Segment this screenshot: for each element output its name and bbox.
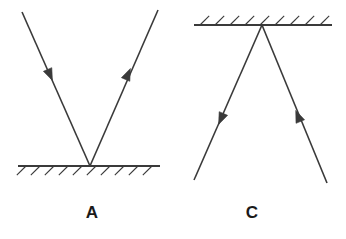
mirror-hatch-tick <box>143 166 152 175</box>
mirror-hatch-tick <box>73 166 82 175</box>
incident-ray-a <box>22 12 90 166</box>
mirror-hatching-a <box>17 166 152 175</box>
reflected-ray-c <box>194 25 262 180</box>
mirror-hatch-tick <box>115 166 124 175</box>
mirror-hatch-tick <box>305 16 314 25</box>
mirror-hatch-tick <box>245 16 254 25</box>
incident-ray-c <box>262 25 327 183</box>
mirror-hatching-c <box>200 16 329 25</box>
panel-label-c: C <box>232 203 272 223</box>
reflected-ray-a <box>90 10 158 166</box>
mirror-hatch-tick <box>31 166 40 175</box>
mirror-hatch-tick <box>87 166 96 175</box>
mirror-hatch-tick <box>290 16 299 25</box>
panel-a <box>17 10 160 175</box>
mirror-hatch-tick <box>215 16 224 25</box>
arrowhead-reflected-a <box>121 69 130 82</box>
mirror-hatch-tick <box>260 16 269 25</box>
mirror-hatch-tick <box>129 166 138 175</box>
mirror-hatch-tick <box>17 166 26 175</box>
mirror-hatch-tick <box>320 16 329 25</box>
panel-label-a: A <box>72 203 112 223</box>
mirror-hatch-tick <box>59 166 68 175</box>
mirror-hatch-tick <box>275 16 284 25</box>
ray-diagram-canvas <box>0 0 346 239</box>
mirror-hatch-tick <box>230 16 239 25</box>
panel-c <box>194 16 332 183</box>
arrowhead-incident-a <box>43 68 52 81</box>
arrowhead-incident-c <box>296 110 305 123</box>
ray-diagram-figure: A C <box>0 0 346 239</box>
mirror-hatch-tick <box>200 16 209 25</box>
arrowhead-reflected-c <box>219 112 228 125</box>
mirror-hatch-tick <box>45 166 54 175</box>
mirror-hatch-tick <box>101 166 110 175</box>
